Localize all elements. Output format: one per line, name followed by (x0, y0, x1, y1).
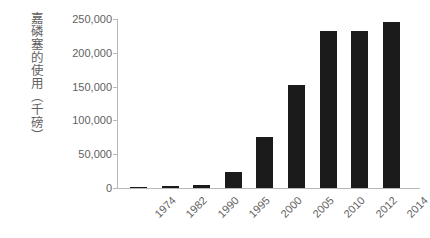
plot-area (117, 19, 409, 188)
y-tick-mark (113, 53, 118, 54)
y-tick-label: 50,000 (44, 148, 112, 160)
bar (256, 137, 273, 188)
bar (351, 31, 368, 188)
bar (383, 22, 400, 188)
x-tick-label: 2014 (404, 194, 430, 220)
y-tick-label: 100,000 (44, 114, 112, 126)
x-tick-label: 2000 (278, 194, 304, 220)
bar (320, 31, 337, 188)
x-tick-label: 1990 (215, 194, 241, 220)
y-tick-mark (113, 87, 118, 88)
x-tick-label: 2012 (373, 194, 399, 220)
bar (225, 172, 242, 188)
bar (162, 186, 179, 188)
y-tick-label: 0 (44, 182, 112, 194)
y-tick-label: 200,000 (44, 47, 112, 59)
bar (288, 85, 305, 188)
x-tick-label: 1974 (152, 194, 178, 220)
y-tick-mark (113, 120, 118, 121)
y-axis-title: 嘉磷塞的使用（千磅） (14, 12, 42, 182)
x-tick-label: 1995 (246, 194, 272, 220)
y-tick-mark (113, 19, 118, 20)
x-axis-tick-labels: 197419821990199520002005201020122014 (117, 190, 427, 238)
y-tick-label: 250,000 (44, 13, 112, 25)
y-tick-mark (113, 188, 118, 189)
bar (193, 185, 210, 188)
bar-series (118, 19, 409, 188)
y-tick-mark (113, 154, 118, 155)
x-tick-label: 1982 (183, 194, 209, 220)
y-tick-label: 150,000 (44, 81, 112, 93)
bar (130, 187, 147, 189)
y-axis-tick-labels: 050,000100,000150,000200,000250,000 (44, 0, 112, 238)
x-tick-label: 2005 (310, 194, 336, 220)
x-tick-label: 2010 (341, 194, 367, 220)
